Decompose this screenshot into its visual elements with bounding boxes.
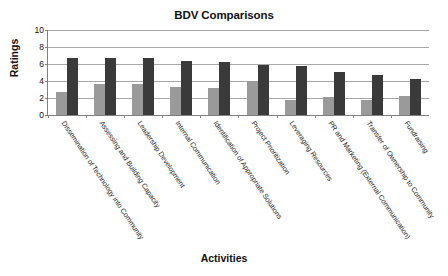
y-axis-title: Ratings [8,28,20,88]
bar-group[interactable] [124,30,162,115]
bar-series-container [48,30,429,115]
bar-group[interactable] [238,30,276,115]
x-axis-tick-mark [277,115,278,118]
bar[interactable] [67,58,78,115]
x-axis-category-labels: Dissemination of Technology into Communi… [47,119,429,249]
bar[interactable] [296,66,307,115]
y-axis-tick-label: 2 [39,93,44,103]
bar[interactable] [94,84,105,115]
bar[interactable] [143,58,154,115]
bar[interactable] [105,58,116,115]
bar-group[interactable] [48,30,86,115]
x-axis-tick-mark [124,115,125,118]
chart-title: BDV Comparisons [0,9,448,21]
bar[interactable] [247,81,258,115]
bar[interactable] [399,96,410,115]
bar[interactable] [258,65,269,115]
plot-area: 0246810 [47,30,429,116]
x-axis-category-label: Dissemination of Technology into Communi… [59,119,145,241]
bar-group[interactable] [391,30,429,115]
bar[interactable] [323,97,334,115]
x-axis-category-label: Leveraging Resources [288,119,335,183]
bar-group[interactable] [86,30,124,115]
y-axis-tick-label: 0 [39,110,44,120]
x-axis-category-label: Project Prioritization [250,119,293,176]
bar[interactable] [372,75,383,115]
x-axis-tick-mark [315,115,316,118]
bar-group[interactable] [315,30,353,115]
x-axis-category-label: Fundraising [402,119,430,155]
x-axis-tick-mark [391,115,392,118]
y-axis-tick-label: 10 [35,25,44,35]
x-axis-tick-mark [86,115,87,118]
x-axis-title: Activities [0,252,448,264]
bdv-comparisons-chart: BDV Comparisons Ratings 0246810 Dissemin… [0,0,448,276]
x-axis-category-label: Identification of Appropriate Solutions [212,119,285,221]
y-axis-tick-label: 8 [39,42,44,52]
y-axis-tick-label: 6 [39,59,44,69]
x-axis-tick-mark [238,115,239,118]
bar[interactable] [132,84,143,115]
x-axis-tick-mark [200,115,201,118]
x-axis-category-label: Transfer of Ownership to Community [364,119,436,220]
y-axis-tick-label: 4 [39,76,44,86]
x-axis-tick-mark [48,115,49,118]
bar[interactable] [410,79,421,115]
bar[interactable] [56,92,67,115]
bar[interactable] [208,88,219,115]
bar-group[interactable] [277,30,315,115]
bar[interactable] [334,72,345,115]
bar[interactable] [219,62,230,115]
x-axis-tick-mark [353,115,354,118]
bar[interactable] [181,61,192,115]
bar-group[interactable] [200,30,238,115]
bar[interactable] [361,100,372,115]
bar-group[interactable] [162,30,200,115]
bar-group[interactable] [353,30,391,115]
x-axis-tick-mark [162,115,163,118]
bar[interactable] [285,100,296,115]
bar[interactable] [170,87,181,115]
x-axis-category-label: PR and Marketing (External Communication… [326,119,412,241]
